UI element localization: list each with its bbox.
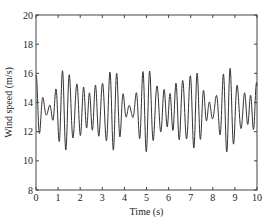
x-tick-label: 9	[232, 192, 237, 203]
y-tick-label: 12	[23, 126, 33, 137]
wind-speed-chart: 012345678910 8101214161820 Time (s) Wind…	[0, 0, 273, 220]
plot-frame	[36, 15, 257, 190]
x-tick-label: 3	[100, 192, 105, 203]
y-tick-label: 14	[23, 97, 33, 108]
x-tick-label: 5	[144, 192, 149, 203]
x-tick-label: 1	[56, 192, 61, 203]
y-tick-label: 20	[23, 10, 33, 21]
y-axis-title: Wind speed (m/s)	[3, 67, 15, 138]
x-tick-label: 4	[122, 192, 127, 203]
x-tick-label: 8	[210, 192, 215, 203]
y-tick-label: 8	[28, 185, 33, 196]
x-tick-label: 10	[252, 192, 262, 203]
wind-speed-series-line	[36, 68, 257, 152]
series-layer	[36, 68, 257, 152]
y-tick-label: 10	[23, 155, 33, 166]
x-tick-label: 2	[78, 192, 83, 203]
x-axis-title: Time (s)	[130, 206, 164, 218]
y-tick-label: 18	[23, 39, 33, 50]
x-tick-label: 0	[34, 192, 39, 203]
x-tick-label: 7	[188, 192, 193, 203]
y-tick-label: 16	[23, 68, 33, 79]
x-tick-label: 6	[166, 192, 171, 203]
